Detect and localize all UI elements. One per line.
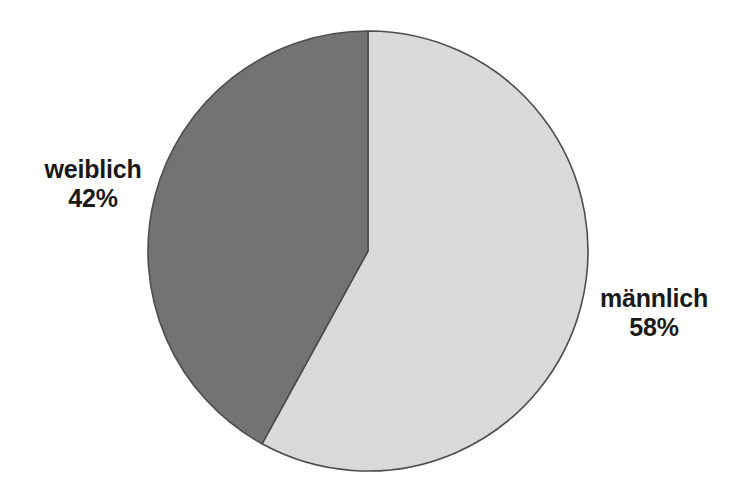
pie-label-weiblich-name: weiblich [8, 155, 178, 184]
pie-label-maennlich-name: männlich [570, 284, 738, 313]
pie-chart-svg [0, 0, 743, 495]
pie-label-weiblich-value: 42% [8, 184, 178, 213]
pie-label-maennlich-value: 58% [570, 313, 738, 342]
pie-label-weiblich: weiblich 42% [8, 155, 178, 213]
pie-chart: weiblich 42% männlich 58% [0, 0, 743, 495]
pie-label-maennlich: männlich 58% [570, 284, 738, 342]
